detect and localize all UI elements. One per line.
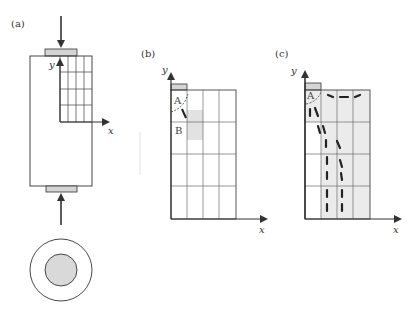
- x-axis-label: x: [259, 224, 265, 235]
- x-axis-label: x: [393, 224, 399, 235]
- y-axis-label: y: [161, 64, 168, 75]
- panel-c-label: (c): [275, 48, 289, 59]
- region-a-label: A: [173, 95, 182, 106]
- top-loading-plate: [45, 49, 77, 56]
- panel-b-label: (b): [141, 48, 155, 59]
- panel-a: (a) y x: [11, 16, 114, 301]
- shaded-zone: [321, 90, 370, 219]
- crack-mark: [182, 109, 186, 118]
- panel-c: (c) A: [275, 48, 400, 235]
- loading-plate: [171, 84, 187, 90]
- panel-a-label: (a): [11, 18, 25, 29]
- x-axis-label: x: [108, 125, 114, 136]
- mesh-grid: [171, 90, 236, 219]
- specimen-body: [30, 56, 92, 186]
- cross-section-inner-circle: [45, 254, 77, 286]
- mesh-grid: [60, 56, 92, 122]
- region-b-label: B: [175, 125, 182, 136]
- y-axis-label: y: [290, 65, 297, 76]
- loading-plate: [305, 83, 321, 90]
- region-a-label: A: [306, 90, 315, 101]
- panel-b: (b) A B y x: [141, 48, 266, 235]
- mesh-outline: [171, 90, 236, 219]
- figure: (a) y x (: [0, 0, 415, 319]
- y-axis-label: y: [48, 59, 55, 70]
- bottom-loading-plate: [46, 186, 77, 192]
- shaded-zone: [187, 110, 203, 140]
